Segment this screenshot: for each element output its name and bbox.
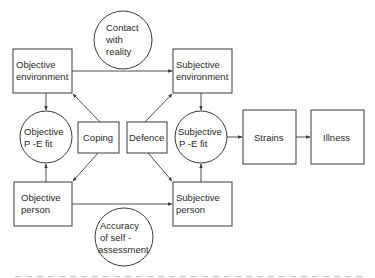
label-line2: P -E fit	[24, 138, 53, 149]
node-accuracy-of-self-assessment: Accuracy of self - assessment	[95, 208, 153, 266]
node-coping: Coping	[78, 122, 119, 153]
label-line1: Contact	[106, 22, 139, 33]
node-strains: Strains	[243, 110, 296, 164]
label-line2: environment	[16, 71, 69, 82]
label-line1: Accuracy	[100, 220, 139, 231]
node-subjective-pe-fit: Subjective P -E fit	[175, 111, 227, 163]
node-illness: Illness	[311, 110, 364, 164]
label-line1: Objective	[24, 126, 64, 137]
edge-coping-objperson	[73, 153, 98, 181]
node-objective-environment: Objective environment	[13, 49, 72, 93]
label-line3: assessment	[98, 244, 149, 255]
node-subjective-person: Subjective person	[173, 182, 232, 226]
edge-coping-objenv	[73, 94, 100, 122]
label: Strains	[254, 132, 284, 143]
label-line2: of self -	[100, 232, 131, 243]
label: Defence	[129, 132, 164, 143]
label-line1: Subjective	[176, 192, 220, 203]
label-line2: with	[105, 34, 123, 45]
p-e-fit-diagram: Objective environment Contact with reali…	[0, 0, 375, 278]
edge-defence-subjperson	[148, 153, 172, 181]
node-objective-pe-fit: Objective P -E fit	[20, 111, 72, 163]
node-contact-with-reality: Contact with reality	[94, 11, 152, 69]
label-line2: person	[176, 204, 205, 215]
label: Coping	[83, 132, 113, 143]
label-line1: Subjective	[178, 126, 222, 137]
label-line2: P -E fit	[179, 138, 208, 149]
edge-defence-subjenv	[145, 94, 172, 122]
label-line1: Objective	[16, 59, 56, 70]
label-line1: Subjective	[176, 59, 220, 70]
node-objective-person: Objective person	[14, 182, 72, 226]
label-line3: reality	[106, 46, 132, 57]
label-line2: person	[21, 204, 50, 215]
node-defence: Defence	[127, 122, 167, 153]
label-line1: Objective	[21, 192, 61, 203]
label: Illness	[323, 132, 350, 143]
node-subjective-environment: Subjective environment	[173, 49, 232, 93]
label-line2: environment	[176, 71, 229, 82]
